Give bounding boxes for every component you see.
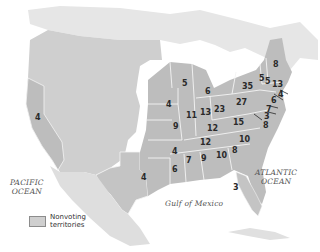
- atlantic-ocean-label: ATLANTIC OCEAN: [255, 168, 297, 187]
- state-value-new-hampshire: 5: [265, 78, 271, 86]
- state-value-california: 4: [35, 114, 41, 122]
- legend-label: Nonvoting territories: [50, 213, 90, 229]
- legend-label-line2: territories: [50, 221, 90, 229]
- electoral-map: 4 4 5 6 4 11 13 23 27 35 5 5 8 13 4 6 7 …: [0, 0, 320, 252]
- state-value-pennsylvania: 27: [236, 99, 247, 107]
- state-value-alabama: 9: [201, 155, 207, 163]
- pacific-ocean-label: PACIFIC OCEAN: [10, 178, 44, 197]
- state-value-texas: 4: [141, 174, 147, 182]
- state-value-wisconsin: 5: [182, 80, 188, 88]
- state-value-iowa: 4: [166, 101, 172, 109]
- state-value-virginia: 15: [233, 119, 244, 127]
- map-legend: Nonvoting territories: [29, 213, 90, 229]
- pacific-label-line2: OCEAN: [10, 187, 44, 196]
- state-value-florida: 3: [233, 184, 239, 192]
- state-value-massachusetts: 13: [272, 81, 283, 89]
- state-value-georgia: 10: [216, 152, 227, 160]
- state-value-connecticut: 6: [271, 97, 277, 105]
- state-value-north-carolina: 10: [239, 136, 250, 144]
- state-value-maryland: 8: [263, 122, 269, 130]
- state-value-new-york: 35: [242, 83, 253, 91]
- territories-swatch: [29, 216, 46, 227]
- state-value-indiana: 13: [200, 109, 211, 117]
- state-value-tennessee: 12: [200, 139, 211, 147]
- state-value-missouri: 9: [173, 123, 179, 131]
- atlantic-label-line1: ATLANTIC: [255, 168, 297, 177]
- state-value-michigan: 6: [205, 88, 211, 96]
- cuba-region: [228, 228, 290, 240]
- pacific-label-line1: PACIFIC: [10, 178, 44, 187]
- state-value-south-carolina: 8: [232, 147, 238, 155]
- state-value-kentucky: 12: [207, 125, 218, 133]
- state-value-vermont: 5: [259, 75, 265, 83]
- state-value-ohio: 23: [214, 106, 225, 114]
- state-value-arkansas: 4: [172, 148, 178, 156]
- state-value-rhode-island: 4: [278, 91, 284, 99]
- state-value-delaware: 3: [264, 113, 270, 121]
- state-value-maine: 8: [273, 61, 279, 69]
- state-value-louisiana: 6: [172, 166, 178, 174]
- state-value-illinois: 11: [186, 112, 197, 120]
- atlantic-label-line2: OCEAN: [255, 177, 297, 186]
- gulf-of-mexico-label: Gulf of Mexico: [165, 199, 223, 208]
- legend-label-line1: Nonvoting: [50, 213, 90, 221]
- state-value-mississippi: 7: [186, 157, 192, 165]
